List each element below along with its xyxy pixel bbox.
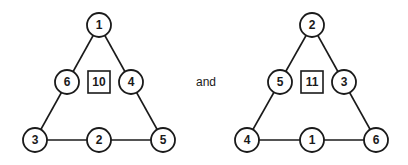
node-top: 1 bbox=[87, 13, 111, 37]
svg-text:6: 6 bbox=[64, 75, 71, 89]
svg-text:1: 1 bbox=[309, 133, 316, 147]
triangle-left: 1 6 4 10 3 2 5 bbox=[23, 13, 175, 152]
svg-text:11: 11 bbox=[306, 75, 319, 89]
magic-triangle-diagram: 1 6 4 10 3 2 5 and bbox=[0, 0, 408, 165]
svg-text:2: 2 bbox=[309, 18, 316, 32]
node-top: 2 bbox=[300, 13, 324, 37]
node-bottom-left: 3 bbox=[23, 128, 47, 152]
node-mid-left: 5 bbox=[268, 70, 292, 94]
sum-box: 11 bbox=[301, 71, 323, 93]
node-mid-left: 6 bbox=[55, 70, 79, 94]
node-bottom-right: 6 bbox=[364, 128, 388, 152]
node-bottom-right: 5 bbox=[151, 128, 175, 152]
node-mid-right: 4 bbox=[119, 70, 143, 94]
node-mid-right: 3 bbox=[332, 70, 356, 94]
connector-text: and bbox=[196, 75, 216, 89]
svg-text:5: 5 bbox=[160, 133, 167, 147]
svg-text:6: 6 bbox=[373, 133, 380, 147]
node-bottom-mid: 1 bbox=[300, 128, 324, 152]
svg-text:3: 3 bbox=[32, 133, 39, 147]
svg-text:4: 4 bbox=[128, 75, 135, 89]
node-bottom-left: 4 bbox=[235, 128, 259, 152]
svg-text:4: 4 bbox=[244, 133, 251, 147]
svg-text:10: 10 bbox=[92, 75, 106, 89]
triangle-right: 2 5 3 11 4 1 6 bbox=[235, 13, 388, 152]
svg-text:1: 1 bbox=[96, 18, 103, 32]
svg-text:2: 2 bbox=[96, 133, 103, 147]
svg-text:5: 5 bbox=[277, 75, 284, 89]
node-bottom-mid: 2 bbox=[87, 128, 111, 152]
sum-box: 10 bbox=[88, 71, 110, 93]
svg-text:3: 3 bbox=[341, 75, 348, 89]
